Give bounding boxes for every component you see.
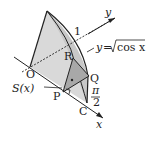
solid-diagram: O 1 y x R Q P C S(x) π 2 y = cos x [0,0,156,148]
curve-leader [87,48,94,52]
label-P: P [53,90,61,103]
label-y-axis: y [104,6,112,19]
label-two: 2 [93,96,100,109]
section-dot [71,79,73,81]
label-R: R [64,50,73,63]
label-x-axis: x [96,118,103,131]
label-C: C [79,105,87,118]
curve-label-lhs: y [95,41,103,54]
label-one: 1 [74,25,81,38]
curve-label-rhs: cos x [117,41,146,54]
label-area: S(x) [12,82,34,95]
label-origin: O [26,68,35,81]
area-leader [44,87,62,88]
